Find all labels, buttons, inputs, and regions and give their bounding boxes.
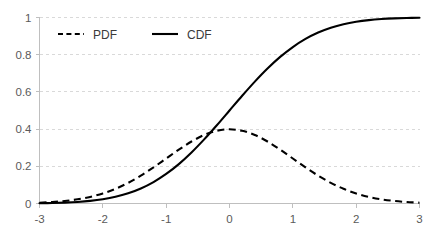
y-axis-tick-label: 0	[25, 198, 31, 210]
y-axis-tick-label: 0.8	[16, 49, 32, 61]
x-axis-tick-label: -2	[98, 213, 108, 225]
x-axis-tick-label: -1	[161, 213, 171, 225]
y-axis-tick-label: 1	[25, 12, 31, 24]
y-axis-tick-label: 0.4	[16, 123, 33, 135]
chart-container: 00.20.40.60.81 -3-2-10123 PDF CDF	[0, 0, 429, 232]
legend-label-cdf: CDF	[187, 28, 212, 42]
y-axis-tick-label: 0.6	[16, 86, 32, 98]
x-axis-tick-label: 1	[290, 213, 296, 225]
y-axis-tick-label: 0.2	[16, 160, 32, 172]
legend-label-pdf: PDF	[93, 28, 117, 42]
x-axis-tick-label: 3	[416, 213, 422, 225]
x-axis-tick-label: 2	[353, 213, 359, 225]
chart-background	[0, 0, 429, 232]
x-axis-tick-label: 0	[226, 213, 232, 225]
normal-distribution-chart: 00.20.40.60.81 -3-2-10123 PDF CDF	[0, 0, 429, 232]
x-axis-tick-label: -3	[34, 213, 44, 225]
